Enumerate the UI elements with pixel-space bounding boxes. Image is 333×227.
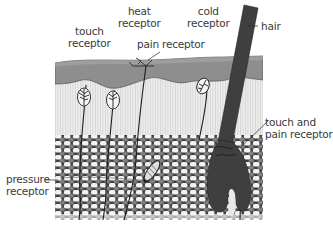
label-touch-receptor: touch receptor [68,25,111,49]
label-line: pressure [6,173,50,185]
label-line: touch and [265,116,333,128]
label-line: receptor [118,17,161,29]
label-line: heat [118,5,161,17]
touch-receptor-shape [78,88,91,106]
label-heat-receptor: heat receptor [118,5,161,29]
heat-receptor-shape [107,91,120,109]
label-cold-receptor: cold receptor [187,5,230,29]
label-hair: hair [261,20,281,32]
label-pressure-receptor: pressure receptor [6,173,50,197]
label-line: receptor [6,185,50,197]
label-line: touch [68,25,111,37]
label-line: receptor [187,17,230,29]
label-line: receptor [68,37,111,49]
label-line: cold [187,5,230,17]
label-line: pain receptor [265,128,333,140]
label-touch-and-pain-receptor: touch and pain receptor [265,116,333,140]
label-pain-receptor: pain receptor [137,38,205,50]
